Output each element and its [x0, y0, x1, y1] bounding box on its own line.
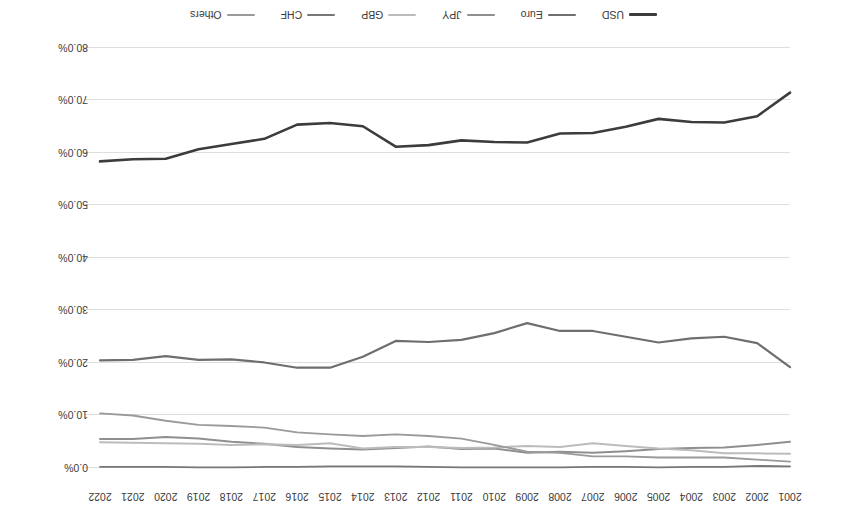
x-axis-tick-label: 2010 [483, 492, 506, 503]
x-axis-tick-label: 2022 [88, 492, 111, 503]
y-axis-tick-label: 0.0% [64, 463, 88, 474]
y-axis-tick-label: 20.0% [58, 358, 88, 369]
x-axis-tick-label: 2008 [548, 492, 571, 503]
currency-composition-line-chart: 2001200220032004200520062007200820092010… [0, 0, 847, 510]
legend-swatch-icon [388, 14, 416, 16]
y-axis-tick-label: 50.0% [58, 200, 88, 211]
y-axis-tick-label: 70.0% [58, 95, 88, 106]
x-axis-tick-label: 2017 [253, 492, 276, 503]
legend-swatch-icon [467, 14, 495, 16]
y-axis-tick-label: 60.0% [58, 148, 88, 159]
x-axis-tick-label: 2006 [614, 492, 637, 503]
series-lines [100, 48, 790, 468]
y-axis-tick-label: 40.0% [58, 253, 88, 264]
legend-label: USD [602, 10, 624, 21]
legend-item-others[interactable]: Others [190, 10, 255, 21]
x-axis-tick-label: 2015 [318, 492, 341, 503]
legend-label: Euro [521, 10, 543, 21]
series-line-others [100, 413, 790, 461]
legend-swatch-icon [307, 14, 335, 16]
x-axis-tick-label: 2012 [417, 492, 440, 503]
legend-label: CHF [281, 10, 303, 21]
legend-label: JPY [442, 10, 461, 21]
y-axis-tick-label: 10.0% [58, 410, 88, 421]
series-line-euro [100, 323, 790, 368]
x-axis-tick-label: 2021 [121, 492, 144, 503]
x-axis-tick-label: 2004 [680, 492, 703, 503]
legend-swatch-icon [227, 14, 255, 16]
x-axis-tick-label: 2018 [220, 492, 243, 503]
x-axis-tick-label: 2007 [581, 492, 604, 503]
series-line-usd [100, 93, 790, 162]
chart-legend: USDEuroJPYGBPCHFOthers [0, 6, 847, 24]
x-axis-tick-label: 2011 [450, 492, 473, 503]
legend-item-gbp[interactable]: GBP [361, 10, 416, 21]
legend-label: Others [190, 10, 222, 21]
x-axis-tick-label: 2014 [351, 492, 374, 503]
y-axis-tick-label: 30.0% [58, 305, 88, 316]
x-axis-tick-label: 2013 [384, 492, 407, 503]
x-axis-tick-label: 2005 [647, 492, 670, 503]
series-line-chf [100, 466, 790, 468]
legend-item-jpy[interactable]: JPY [442, 10, 494, 21]
legend-item-chf[interactable]: CHF [281, 10, 336, 21]
legend-item-euro[interactable]: Euro [521, 10, 576, 21]
x-axis-tick-label: 2016 [285, 492, 308, 503]
x-axis-tick-label: 2002 [745, 492, 768, 503]
legend-swatch-icon [629, 14, 657, 17]
x-axis-tick-labels: 2001200220032004200520062007200820092010… [100, 476, 790, 502]
x-axis-tick-label: 2020 [154, 492, 177, 503]
legend-item-usd[interactable]: USD [602, 10, 657, 21]
x-axis-tick-label: 2003 [713, 492, 736, 503]
y-axis-tick-label: 80.0% [58, 43, 88, 54]
series-layer [100, 48, 790, 468]
plot-area: 0.0%10.0%20.0%30.0%40.0%50.0%60.0%70.0%8… [100, 48, 790, 468]
legend-swatch-icon [548, 14, 576, 17]
x-axis-tick-label: 2001 [778, 492, 801, 503]
legend-label: GBP [361, 10, 383, 21]
x-axis-tick-label: 2009 [515, 492, 538, 503]
x-axis-tick-label: 2019 [187, 492, 210, 503]
